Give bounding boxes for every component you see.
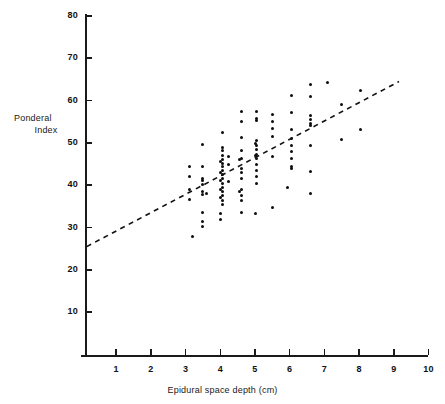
data-point (309, 118, 312, 121)
data-point (290, 167, 293, 170)
data-point (201, 220, 204, 223)
y-axis-title-line2: Index (14, 124, 78, 136)
data-point (255, 182, 258, 185)
data-point (290, 94, 293, 97)
data-point (201, 193, 204, 196)
data-point (290, 128, 293, 131)
y-tick-20 (86, 269, 92, 271)
y-tick-label-40: 40 (52, 179, 78, 189)
data-point (309, 170, 312, 173)
data-point (240, 120, 243, 123)
x-tick-4 (220, 349, 222, 355)
data-point (188, 188, 191, 191)
data-point (227, 180, 230, 183)
data-point (240, 177, 243, 180)
data-point (309, 95, 312, 98)
data-point (221, 165, 224, 168)
y-tick-label-10: 10 (52, 306, 78, 316)
data-point (359, 128, 362, 131)
x-tick-3 (185, 349, 187, 355)
data-point (254, 154, 257, 157)
data-point (191, 235, 194, 238)
data-point (240, 194, 243, 197)
y-tick-label-60: 60 (52, 95, 78, 105)
data-point (309, 83, 312, 86)
x-tick-10 (428, 349, 430, 355)
y-tick-30 (86, 227, 92, 229)
data-point (188, 198, 191, 201)
data-point (340, 103, 343, 106)
data-point (271, 120, 274, 123)
data-point (309, 124, 312, 127)
data-point (255, 110, 258, 113)
data-point (240, 136, 243, 139)
data-point (326, 81, 329, 84)
y-axis-title-line1: Ponderal (14, 112, 78, 124)
data-point (240, 171, 243, 174)
x-tick-label-1: 1 (106, 364, 126, 374)
x-tick-6 (289, 349, 291, 355)
x-tick-7 (324, 349, 326, 355)
data-point (221, 154, 224, 157)
y-tick-label-20: 20 (52, 264, 78, 274)
x-tick-label-5: 5 (245, 364, 265, 374)
x-tick-label-9: 9 (384, 364, 404, 374)
data-point (238, 158, 241, 161)
data-point (240, 149, 243, 152)
data-point (221, 203, 224, 206)
data-point (255, 119, 258, 122)
x-tick-label-3: 3 (176, 364, 196, 374)
data-point (290, 157, 293, 160)
scatter-plot-figure: Ponderal Index Epidural space depth (cm)… (0, 0, 445, 404)
data-point (221, 199, 224, 202)
data-point (271, 113, 274, 116)
data-point (290, 137, 293, 140)
data-point (309, 192, 312, 195)
data-point (238, 190, 241, 193)
data-point (271, 127, 274, 130)
data-point (205, 192, 208, 195)
y-tick-label-50: 50 (52, 137, 78, 147)
x-tick-9 (393, 349, 395, 355)
data-point (219, 218, 222, 221)
data-point (255, 175, 258, 178)
data-point (290, 111, 293, 114)
y-tick-70 (86, 57, 92, 59)
data-point (201, 211, 204, 214)
data-point (240, 211, 243, 214)
x-axis-title: Epidural space depth (cm) (0, 385, 445, 395)
data-point (227, 163, 230, 166)
data-point (201, 183, 204, 186)
y-tick-80 (86, 15, 92, 17)
data-point (340, 138, 343, 141)
data-point (188, 175, 191, 178)
x-tick-label-4: 4 (210, 364, 230, 374)
data-point (271, 206, 274, 209)
x-tick-label-10: 10 (419, 364, 439, 374)
data-point (286, 186, 289, 189)
data-point (188, 165, 191, 168)
data-point (219, 212, 222, 215)
data-point (201, 225, 204, 228)
data-point (290, 150, 293, 153)
x-tick-label-2: 2 (141, 364, 161, 374)
data-point (254, 212, 257, 215)
data-point (255, 148, 258, 151)
data-point (255, 169, 258, 172)
data-point (240, 110, 243, 113)
y-tick-label-70: 70 (52, 52, 78, 62)
data-point (240, 199, 243, 202)
x-tick-label-6: 6 (280, 364, 300, 374)
data-point (309, 144, 312, 147)
y-tick-10 (86, 311, 92, 313)
data-point (201, 165, 204, 168)
y-tick-label-80: 80 (52, 10, 78, 20)
data-point (219, 188, 222, 191)
data-point (201, 143, 204, 146)
x-tick-label-7: 7 (314, 364, 334, 374)
data-point (255, 163, 258, 166)
x-tick-2 (150, 349, 152, 355)
y-tick-label-30: 30 (52, 222, 78, 232)
data-point (221, 182, 224, 185)
data-point (240, 167, 243, 170)
